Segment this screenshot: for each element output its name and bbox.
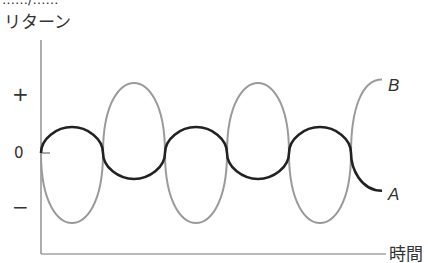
x-axis-label: 時間 bbox=[389, 244, 423, 263]
y-axis-label: リターン bbox=[4, 12, 71, 32]
series-a-line bbox=[41, 127, 382, 191]
series-b-label: B bbox=[388, 76, 399, 95]
y-tick-zero: 0 bbox=[14, 144, 24, 162]
cropped-header-text: ……/…… bbox=[2, 0, 58, 7]
y-tick-plus: + bbox=[12, 82, 29, 106]
return-vs-time-chart: ……/…… リターン + 0 − 時間 B A bbox=[0, 0, 428, 263]
series-a-label: A bbox=[387, 185, 399, 204]
series-b-line bbox=[41, 80, 382, 224]
y-tick-minus: − bbox=[12, 195, 29, 219]
